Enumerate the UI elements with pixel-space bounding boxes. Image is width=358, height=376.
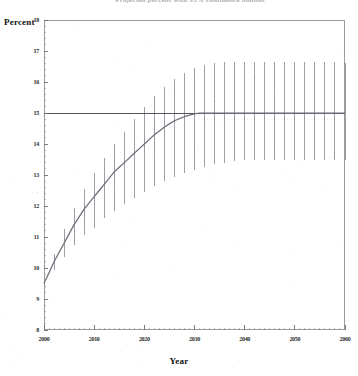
x-tick-2030: 2030 bbox=[180, 336, 210, 343]
y-tick-13: 13 bbox=[23, 172, 39, 178]
y-tick-14: 14 bbox=[23, 141, 39, 147]
y-tick-17: 17 bbox=[23, 48, 39, 54]
y-tick-15: 15 bbox=[23, 110, 39, 116]
y-tick-10: 10 bbox=[23, 265, 39, 271]
y-tick-12: 12 bbox=[23, 203, 39, 209]
y-tick-9: 9 bbox=[23, 296, 39, 302]
x-tick-2020: 2020 bbox=[129, 336, 159, 343]
y-tick-8: 8 bbox=[23, 327, 39, 333]
axis-ticks-group bbox=[44, 20, 345, 330]
x-tick-2050: 2050 bbox=[280, 336, 310, 343]
x-tick-2010: 2010 bbox=[79, 336, 109, 343]
y-tick-16: 16 bbox=[23, 79, 39, 85]
x-tick-2060: 2060 bbox=[330, 336, 358, 343]
x-axis-title: Year bbox=[0, 356, 358, 366]
chart-figure: Projected percent with 95% confidence bo… bbox=[0, 0, 358, 376]
y-tick-11: 11 bbox=[23, 234, 39, 240]
x-tick-2000: 2000 bbox=[29, 336, 59, 343]
plot-canvas bbox=[0, 0, 358, 376]
y-tick-18: 18 bbox=[23, 17, 39, 23]
